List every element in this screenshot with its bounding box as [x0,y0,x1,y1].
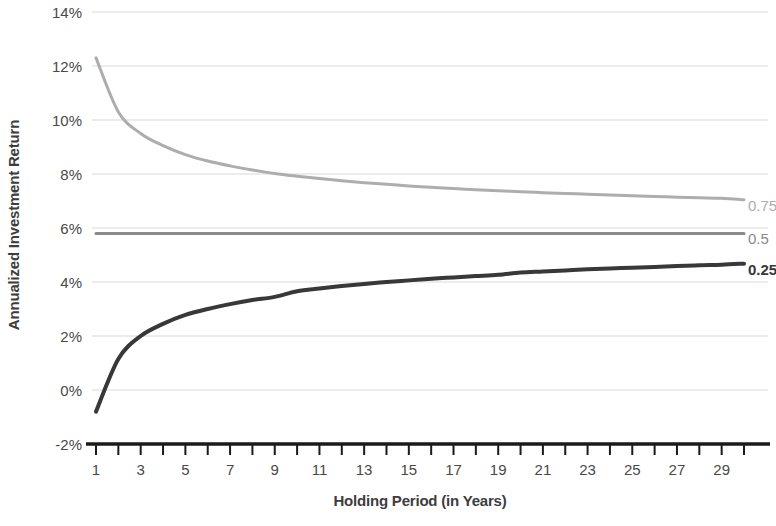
x-axis-tick-label: 17 [445,461,462,478]
y-axis-tick-label: 14% [52,4,82,21]
y-axis-tick-label: 2% [60,328,82,345]
x-axis-tick-label: 7 [226,461,234,478]
y-axis-tick-label: 10% [52,112,82,129]
y-axis-tick-label: 8% [60,166,82,183]
series-label-0.5: 0.5 [748,230,769,247]
data-series-lines [96,58,744,412]
x-axis-tick-label: 11 [312,461,328,478]
y-axis-tick-label: 12% [52,58,82,75]
x-axis-tick-label: 13 [356,461,373,478]
x-axis-tick-marks [96,445,744,455]
series-line-0.75 [96,58,744,200]
y-axis-tick-labels: 14%12%10%8%6%4%2%0%-2% [52,4,82,453]
y-axis-tick-label: 4% [60,274,82,291]
x-axis-tick-labels: 1357911131517192123252729 [92,461,730,478]
series-inline-labels: 0.750.50.25 [748,197,776,278]
x-axis-tick-label: 19 [490,461,507,478]
series-label-0.25: 0.25 [748,261,776,278]
y-axis-tick-label: -2% [55,436,82,453]
x-axis-tick-label: 1 [92,461,100,478]
chart-plot-area: 14%12%10%8%6%4%2%0%-2% 13579111315171921… [0,0,776,526]
x-axis-tick-label: 29 [713,461,730,478]
x-axis-tick-label: 25 [624,461,641,478]
x-axis-tick-label: 3 [137,461,145,478]
series-line-0.25 [96,264,744,412]
x-axis-tick-label: 27 [669,461,686,478]
x-axis-tick-label: 15 [400,461,417,478]
x-axis-tick-label: 9 [271,461,279,478]
chart-container: Annualized Investment Return 14%12%10%8%… [0,0,776,526]
y-axis-tick-label: 0% [60,382,82,399]
x-axis-tick-label: 5 [181,461,189,478]
gridlines [92,12,768,390]
x-axis-title: Holding Period (in Years) [96,492,744,509]
y-axis-tick-label: 6% [60,220,82,237]
x-axis-tick-label: 23 [579,461,596,478]
series-label-0.75: 0.75 [748,197,776,214]
x-axis-tick-label: 21 [535,461,552,478]
